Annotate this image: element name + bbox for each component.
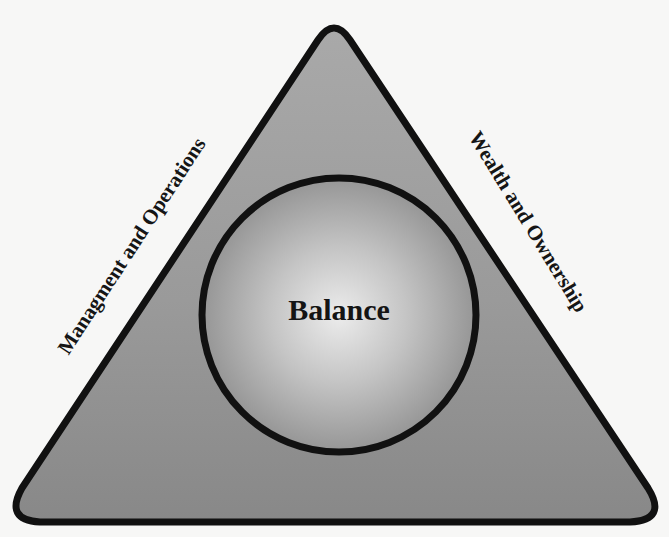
center-label-balance: Balance xyxy=(288,295,390,325)
balance-diagram: Managment and Operations Wealth and Owne… xyxy=(0,0,669,537)
